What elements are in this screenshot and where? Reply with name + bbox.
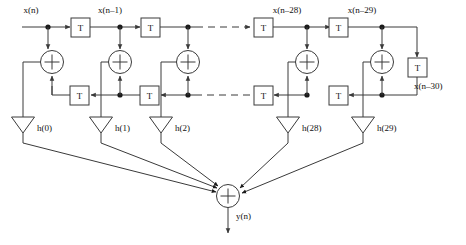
delay-label-top-3: T [261, 23, 267, 33]
amp-output-fanin [23, 143, 363, 193]
delay-label-bottom-4: T [336, 91, 342, 101]
delay-label-top-1: T [78, 23, 84, 33]
label-coefficient-h1: h(1) [115, 123, 130, 133]
label-tap-xn29: x(n–29) [348, 5, 377, 15]
label-tap-xn28: x(n–28) [273, 5, 302, 15]
delay-label-top-4: T [336, 23, 342, 33]
adder-to-amp-4 [288, 62, 296, 117]
adder-to-amp-3 [161, 62, 177, 117]
delay-label-right: T [415, 63, 421, 73]
delay-label-bottom-3: T [261, 91, 267, 101]
amplifier-h2 [150, 117, 173, 143]
label-output-yn: y(n) [236, 211, 251, 221]
delay-label-bottom-2: T [147, 91, 153, 101]
adder-stage-1 [41, 51, 64, 74]
adder-stage-3 [177, 51, 200, 74]
adder-to-amp-1 [23, 62, 41, 117]
label-input-xn: x(n) [24, 5, 39, 15]
amplifier-h0 [12, 117, 35, 143]
delay-label-bottom-1: T [77, 91, 83, 101]
adder-stage-4 [296, 51, 319, 74]
amplifier-h29 [352, 117, 375, 143]
amplifier-h28 [277, 117, 300, 143]
label-coefficient-h28: h(28) [302, 123, 322, 133]
adder-stage-2 [109, 51, 132, 74]
adder-to-amp-5 [363, 62, 371, 117]
fir-filter-diagram: x(n) x(n–1) x(n–28) x(n–29) x(n–30) T T … [0, 0, 466, 245]
amplifier-h1 [90, 117, 113, 143]
label-coefficient-h2: h(2) [175, 123, 190, 133]
label-tap-xn1: x(n–1) [98, 5, 122, 15]
label-coefficient-h29: h(29) [377, 123, 397, 133]
label-coefficient-h0: h(0) [37, 123, 52, 133]
delay-label-top-2: T [148, 23, 154, 33]
label-tap-xn30: x(n–30) [414, 81, 443, 91]
adder-to-amp-2 [101, 62, 109, 117]
adder-stage-5 [371, 51, 394, 74]
output-adder [217, 185, 240, 234]
diagram-canvas: x(n) x(n–1) x(n–28) x(n–29) x(n–30) T T … [0, 0, 466, 245]
